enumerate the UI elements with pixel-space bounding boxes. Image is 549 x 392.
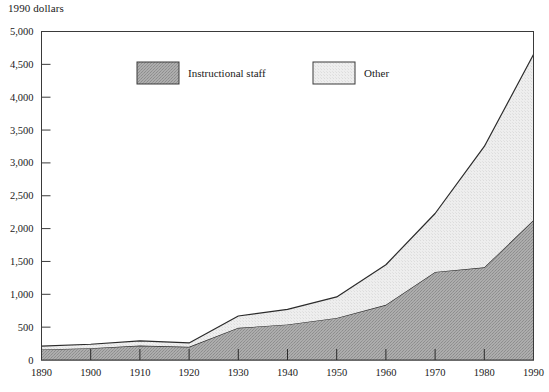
x-tick-label: 1900 <box>80 367 101 378</box>
legend: Instructional staff Other <box>137 62 389 84</box>
legend-label-instructional-staff: Instructional staff <box>188 67 266 79</box>
y-axis-tick-labels: 05001,0001,5002,0002,5003,0003,5004,0004… <box>10 26 34 366</box>
y-tick-label: 0 <box>28 355 33 366</box>
x-tick-label: 1970 <box>425 367 446 378</box>
y-axis-ticks <box>42 32 51 328</box>
x-tick-label: 1950 <box>326 367 347 378</box>
y-tick-label: 4,000 <box>10 92 34 103</box>
x-tick-label: 1910 <box>129 367 150 378</box>
x-tick-label: 1960 <box>375 367 396 378</box>
x-tick-label: 1920 <box>179 367 200 378</box>
y-tick-label: 3,500 <box>10 125 34 136</box>
y-tick-label: 2,000 <box>10 223 34 234</box>
y-tick-label: 5,000 <box>10 26 34 37</box>
stacked-area-chart: 05001,0001,5002,0002,5003,0003,5004,0004… <box>0 0 549 392</box>
y-tick-label: 500 <box>18 322 34 333</box>
chart-figure: 1990 dollars 05001,0001,5002,0002,5003,0… <box>0 0 549 392</box>
x-tick-label: 1980 <box>474 367 495 378</box>
area-series-group <box>42 32 534 361</box>
x-axis-tick-labels: 1890190019101920193019401950196019701980… <box>31 367 544 378</box>
legend-swatch-other <box>313 62 355 84</box>
x-tick-label: 1940 <box>277 367 298 378</box>
legend-swatch-instructional-staff <box>137 62 179 84</box>
x-tick-label: 1930 <box>228 367 249 378</box>
y-tick-label: 1,500 <box>10 256 34 267</box>
x-tick-label: 1990 <box>523 367 544 378</box>
y-tick-label: 1,000 <box>10 289 34 300</box>
legend-label-other: Other <box>364 67 389 79</box>
y-tick-label: 4,500 <box>10 59 34 70</box>
y-tick-label: 2,500 <box>10 190 34 201</box>
y-tick-label: 3,000 <box>10 157 34 168</box>
x-tick-label: 1890 <box>31 367 52 378</box>
